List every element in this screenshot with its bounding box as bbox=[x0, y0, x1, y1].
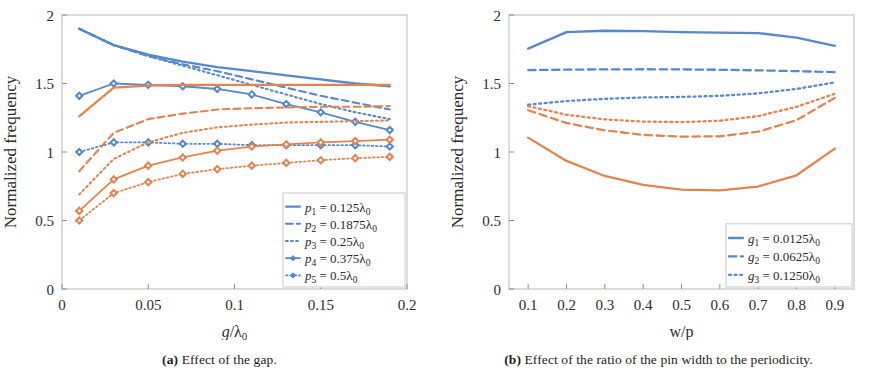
series-line-b-1 bbox=[528, 69, 835, 72]
legend-label-b-0: g1 = 0.0125λ0 bbox=[748, 231, 820, 248]
x-axis-title-b: w/p bbox=[670, 323, 694, 340]
series-marker-center-a-9-8 bbox=[354, 157, 357, 160]
x-tick-label-b-2: 0.3 bbox=[595, 297, 614, 313]
series-marker-center-a-9-7 bbox=[319, 159, 322, 162]
y-axis-title-a: Normalized frequency bbox=[1, 75, 20, 228]
y-tick-label-b-3: 1.5 bbox=[482, 76, 501, 92]
series-marker-center-a-3-0 bbox=[78, 94, 81, 97]
y-tick-label-a-3: 1.5 bbox=[35, 76, 54, 92]
x-tick-label-b-6: 0.7 bbox=[749, 297, 768, 313]
panel-b-caption-tag: (b) bbox=[504, 352, 521, 367]
series-marker-center-a-9-9 bbox=[388, 155, 391, 158]
y-tick-label-b-0: 0 bbox=[494, 282, 502, 298]
series-line-a-4 bbox=[79, 142, 390, 152]
y-axis-title-b: Normalized frequency bbox=[448, 75, 467, 228]
series-marker-center-a-8-3 bbox=[181, 156, 184, 159]
x-tick-label-b-5: 0.6 bbox=[710, 297, 729, 313]
figure-container: 00.511.5200.050.10.150.2Normalized frequ… bbox=[0, 0, 878, 374]
series-marker-center-a-3-9 bbox=[388, 129, 391, 132]
x-tick-label-a-3: 0.15 bbox=[308, 297, 334, 313]
series-line-b-3 bbox=[528, 138, 835, 191]
y-tick-label-b-4: 2 bbox=[494, 8, 502, 24]
x-tick-label-b-8: 0.9 bbox=[825, 297, 844, 313]
series-line-b-4 bbox=[528, 98, 835, 137]
series-marker-center-a-8-8 bbox=[354, 140, 357, 143]
panel-a-caption-text: Effect of the gap. bbox=[178, 352, 277, 367]
series-marker-center-a-8-7 bbox=[319, 141, 322, 144]
series-marker-center-a-3-5 bbox=[250, 93, 253, 96]
x-tick-label-b-0: 0.1 bbox=[519, 297, 538, 313]
series-line-a-2 bbox=[79, 29, 390, 119]
x-tick-label-a-0: 0 bbox=[58, 297, 66, 313]
series-marker-center-a-9-0 bbox=[78, 219, 81, 222]
series-marker-center-a-4-1 bbox=[112, 141, 115, 144]
series-marker-center-a-3-7 bbox=[319, 111, 322, 114]
y-tick-label-a-0: 0 bbox=[47, 282, 55, 298]
legend-label-b-2: g3 = 0.1250λ0 bbox=[748, 268, 820, 285]
panel-b-caption: (b) Effect of the ratio of the pin width… bbox=[439, 352, 878, 368]
panel-a-caption: (a) Effect of the gap. bbox=[0, 352, 439, 368]
series-line-b-2 bbox=[528, 82, 835, 104]
series-marker-center-a-3-1 bbox=[112, 82, 115, 85]
series-marker-center-a-8-6 bbox=[285, 143, 288, 146]
series-marker-center-a-9-6 bbox=[285, 162, 288, 165]
series-line-a-0 bbox=[79, 29, 390, 87]
series-marker-center-a-8-1 bbox=[112, 178, 115, 181]
panel-a-caption-tag: (a) bbox=[162, 352, 178, 367]
series-marker-center-a-3-4 bbox=[216, 88, 219, 91]
x-axis-title-a: g/λ0 bbox=[222, 323, 248, 340]
x-tick-label-b-1: 0.2 bbox=[557, 297, 576, 313]
x-tick-label-a-1: 0.05 bbox=[135, 297, 161, 313]
svg-text:g/λ0: g/λ0 bbox=[222, 323, 248, 340]
plot-area-a: 00.511.5200.050.10.150.2Normalized frequ… bbox=[0, 0, 439, 340]
series-marker-center-a-8-0 bbox=[78, 210, 81, 213]
series-marker-center-a-8-2 bbox=[147, 164, 150, 167]
series-marker-center-a-8-5 bbox=[250, 145, 253, 148]
series-marker-center-a-3-6 bbox=[285, 103, 288, 106]
series-marker-center-a-4-0 bbox=[78, 151, 81, 154]
series-marker-center-a-4-9 bbox=[388, 145, 391, 148]
y-tick-label-b-2: 1 bbox=[494, 145, 502, 161]
series-marker-center-a-8-4 bbox=[216, 149, 219, 152]
series-marker-center-a-4-4 bbox=[216, 142, 219, 145]
x-tick-label-a-2: 0.1 bbox=[225, 297, 244, 313]
series-marker-center-a-4-3 bbox=[181, 142, 184, 145]
x-tick-label-b-3: 0.4 bbox=[634, 297, 653, 313]
series-marker-center-a-9-3 bbox=[181, 173, 184, 176]
series-line-a-7 bbox=[79, 120, 390, 194]
series-marker-center-a-9-4 bbox=[216, 168, 219, 171]
y-tick-label-a-1: 0.5 bbox=[35, 213, 54, 229]
chart-panel-b: 00.511.520.10.20.30.40.50.60.70.80.9Norm… bbox=[439, 0, 878, 374]
y-tick-label-b-1: 0.5 bbox=[482, 213, 501, 229]
y-tick-label-a-2: 1 bbox=[47, 145, 55, 161]
panel-b-caption-text: Effect of the ratio of the pin width to … bbox=[521, 352, 813, 367]
legend-label-b-1: g2 = 0.0625λ0 bbox=[748, 249, 820, 266]
series-line-b-5 bbox=[528, 94, 835, 122]
series-marker-center-a-9-1 bbox=[112, 192, 115, 195]
chart-panel-a: 00.511.5200.050.10.150.2Normalized frequ… bbox=[0, 0, 439, 374]
series-marker-center-a-9-5 bbox=[250, 164, 253, 167]
series-marker-center-a-8-9 bbox=[388, 138, 391, 141]
x-tick-label-b-7: 0.8 bbox=[787, 297, 806, 313]
series-line-b-0 bbox=[528, 31, 835, 49]
plot-area-b: 00.511.520.10.20.30.40.50.60.70.80.9Norm… bbox=[439, 0, 878, 340]
y-tick-label-a-4: 2 bbox=[47, 8, 55, 24]
series-marker-center-a-9-2 bbox=[147, 181, 150, 184]
x-tick-label-b-4: 0.5 bbox=[672, 297, 691, 313]
x-tick-label-a-4: 0.2 bbox=[398, 297, 417, 313]
series-line-a-6 bbox=[79, 106, 390, 171]
